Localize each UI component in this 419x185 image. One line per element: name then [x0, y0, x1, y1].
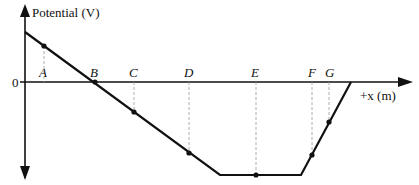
- y-axis-up-arrow-icon: [20, 4, 30, 17]
- y-axis-down-arrow-icon: [20, 166, 30, 180]
- point-label-a: A: [38, 65, 47, 80]
- point-label-b: B: [90, 65, 98, 80]
- zero-label: 0: [12, 75, 19, 90]
- x-axis-label: +x (m): [360, 88, 396, 103]
- point-label-c: C: [129, 65, 138, 80]
- point-label-f: F: [307, 65, 317, 80]
- y-axis-label: Potential (V): [32, 5, 100, 20]
- x-axis-arrow-icon: [398, 77, 413, 87]
- point-label-e: E: [250, 65, 259, 80]
- potential-diagram: Potential (V) +x (m) 0 A B C D E F G: [0, 0, 419, 185]
- point-label-g: G: [325, 65, 335, 80]
- point-label-d: D: [183, 65, 194, 80]
- data-points: [41, 43, 331, 177]
